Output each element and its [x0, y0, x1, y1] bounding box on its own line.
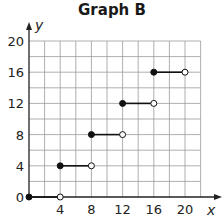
open-point-icon	[57, 194, 63, 200]
y-tick-label: 12	[7, 96, 24, 111]
y-tick-label: 20	[7, 34, 24, 49]
y-tick-label: 0	[16, 190, 24, 205]
y-tick-label: 8	[16, 128, 24, 143]
closed-point-icon	[88, 132, 94, 138]
step-function-graph: 48121620048121620xy	[0, 0, 224, 223]
open-point-icon	[88, 163, 94, 169]
x-tick-label: 20	[177, 202, 194, 217]
closed-point-icon	[57, 163, 63, 169]
y-axis-label: y	[34, 17, 44, 33]
y-axis-arrow-icon	[26, 22, 32, 30]
y-tick-label: 4	[16, 159, 24, 174]
open-point-icon	[151, 100, 157, 106]
x-tick-label: 8	[87, 202, 95, 217]
closed-point-icon	[26, 194, 32, 200]
open-point-icon	[182, 69, 188, 75]
x-axis-label: x	[206, 202, 216, 218]
x-tick-label: 16	[146, 202, 163, 217]
open-point-icon	[120, 132, 126, 138]
closed-point-icon	[151, 69, 157, 75]
x-axis-arrow-icon	[214, 194, 222, 200]
y-tick-label: 16	[7, 65, 24, 80]
x-tick-label: 12	[114, 202, 131, 217]
x-tick-label: 4	[56, 202, 64, 217]
closed-point-icon	[120, 100, 126, 106]
